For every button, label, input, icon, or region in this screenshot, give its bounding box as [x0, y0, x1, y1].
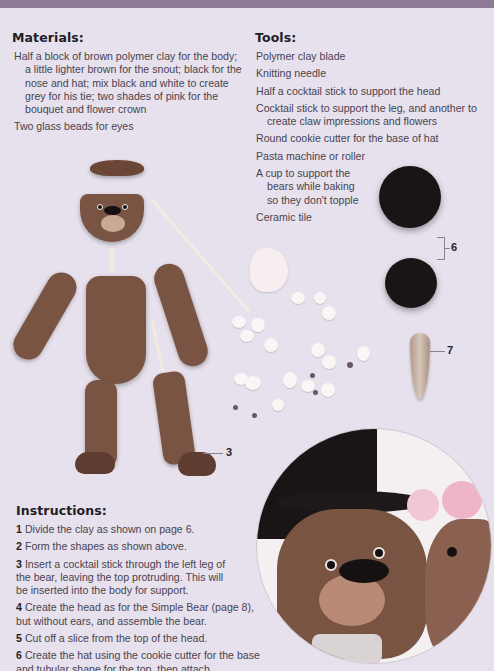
clay-dot: [347, 362, 353, 368]
clay-pebble: [357, 346, 370, 361]
clay-pebble: [272, 399, 284, 411]
callout-6: 6: [451, 241, 457, 253]
tools-item: Cocktail stick to support the leg, and a…: [256, 102, 488, 129]
flower-bouquet: [250, 248, 288, 292]
tools-item: Round cookie cutter for the base of hat: [256, 132, 488, 145]
tools-item: Polymer clay blade: [256, 50, 488, 63]
clay-pebble: [264, 338, 278, 352]
photo-eye-left: [325, 559, 337, 571]
step-text: Divide the clay as shown on page 6.: [25, 523, 195, 535]
clay-pebble: [314, 292, 326, 304]
head-stick: [110, 248, 114, 274]
step-number: 3: [16, 558, 22, 570]
clay-pebble: [232, 316, 246, 328]
head-slice: [90, 160, 144, 176]
step-number: 5: [16, 632, 22, 644]
callout-7-leader: [430, 351, 445, 352]
instruction-step: 3Insert a cocktail stick through the lef…: [16, 558, 236, 598]
clay-dot: [233, 405, 238, 410]
clay-dot: [313, 390, 318, 395]
step-text: Form the shapes as shown above.: [25, 540, 187, 552]
bear-head: [80, 194, 144, 242]
materials-list: Half a block of brown polymer clay for t…: [14, 50, 244, 138]
clay-pebble: [322, 306, 336, 320]
bear-left-arm: [8, 267, 82, 365]
clay-dot: [252, 413, 257, 418]
callout-3: 3: [226, 446, 232, 458]
clay-pebble: [251, 318, 265, 332]
snout: [101, 215, 125, 232]
instruction-step: 1Divide the clay as shown on page 6.: [16, 523, 266, 536]
left-foot: [75, 452, 115, 474]
instruction-step: 4Create the head as for the Simple Bear …: [16, 601, 256, 628]
step-text: Insert a cocktail stick through the left…: [16, 558, 225, 597]
finished-bears-photo: [256, 428, 492, 664]
left-eye: [97, 204, 103, 210]
step-text: Cut off a slice from the top of the head…: [25, 632, 207, 644]
bear-body: [86, 276, 146, 384]
header-bar: [0, 0, 494, 8]
photo-nose: [339, 559, 389, 583]
step-number: 2: [16, 540, 22, 552]
photo-bride-bear: [425, 519, 492, 664]
tools-item: A cup to support the bears while baking …: [256, 167, 368, 207]
right-eye: [122, 204, 128, 210]
instructions-list: 1Divide the clay as shown on page 6. 2Fo…: [16, 523, 266, 671]
tools-item: Knitting needle: [256, 67, 488, 80]
clay-pebble: [291, 292, 305, 304]
instruction-step: 6Create the hat using the cookie cutter …: [16, 649, 278, 671]
nose: [104, 206, 121, 215]
step-text: Create the head as for the Simple Bear (…: [16, 601, 254, 626]
hat-brim-disc: [379, 166, 441, 228]
callout-6-bracket: [437, 237, 445, 260]
materials-heading: Materials:: [12, 30, 84, 45]
step-number: 1: [16, 523, 22, 535]
hat-top-cylinder: [385, 258, 437, 308]
materials-item: Half a block of brown polymer clay for t…: [14, 50, 244, 116]
instruction-step: 5Cut off a slice from the top of the hea…: [16, 632, 266, 645]
tools-list: Polymer clay blade Knitting needle Half …: [256, 50, 488, 228]
step-number: 4: [16, 601, 22, 613]
tie-piece: [410, 333, 430, 399]
clay-pebble: [240, 330, 254, 342]
tools-heading: Tools:: [255, 30, 296, 45]
materials-item: Two glass beads for eyes: [14, 120, 244, 133]
photo-flower: [407, 489, 439, 521]
instructions-heading: Instructions:: [16, 503, 107, 518]
tools-item: Half a cocktail stick to support the hea…: [256, 85, 488, 98]
photo-flower: [442, 481, 482, 519]
callout-3-leader: [203, 453, 223, 454]
tools-item: Pasta machine or roller: [256, 150, 488, 163]
step-number: 6: [16, 649, 22, 661]
clay-pebble: [321, 383, 335, 397]
clay-pebble: [283, 372, 297, 388]
photo-eye-right: [373, 547, 385, 559]
clay-pebble: [322, 355, 336, 369]
instruction-step: 2Form the shapes as shown above.: [16, 540, 266, 553]
step-text: Create the hat using the cookie cutter f…: [16, 649, 260, 671]
callout-7: 7: [447, 344, 453, 356]
clay-pebble: [311, 343, 325, 357]
clay-dot: [310, 373, 315, 378]
clay-pebble: [245, 376, 261, 390]
tools-item: Ceramic tile: [256, 211, 488, 224]
right-foot: [178, 452, 216, 476]
photo-tie: [312, 634, 382, 664]
photo-snout: [319, 574, 385, 626]
callout-6-leader: [445, 248, 450, 249]
leg-stick: [150, 318, 164, 371]
photo-bride-eye: [447, 547, 457, 557]
